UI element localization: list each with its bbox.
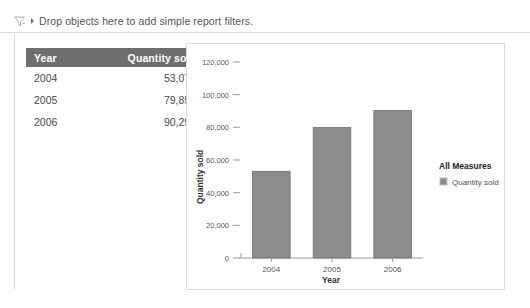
filter-bar-divider xyxy=(0,32,530,33)
filter-funnel-icon xyxy=(13,15,26,28)
cell-year: 2005 xyxy=(26,89,98,111)
y-tick-label: 80,000 xyxy=(206,123,229,132)
y-tick-label: 60,000 xyxy=(206,156,229,165)
table-row: 2005 79,855 xyxy=(26,89,204,111)
table-row: 2004 53,078 xyxy=(26,67,204,89)
x-tick-label: 2004 xyxy=(262,265,280,274)
bar-2005[interactable] xyxy=(313,128,351,258)
bar-chart: Quantity sold 020,00040,00060,00080,0001… xyxy=(187,44,504,289)
bar-series-quantity-sold xyxy=(253,111,412,258)
table-row: 2006 90,296 xyxy=(26,111,204,133)
cell-year: 2004 xyxy=(26,67,98,89)
y-tick-label: 40,000 xyxy=(206,189,229,198)
y-tick-label: 100,000 xyxy=(202,91,229,100)
column-header-year[interactable]: Year xyxy=(26,48,98,67)
x-axis-ticks: 200420052006 xyxy=(262,258,402,274)
legend-swatch-quantity-sold xyxy=(440,178,447,185)
bar-2006[interactable] xyxy=(374,111,412,258)
bar-2004[interactable] xyxy=(253,171,291,258)
legend-label-quantity-sold: Quantity sold xyxy=(452,178,499,187)
x-tick-label: 2005 xyxy=(323,265,341,274)
cell-year: 2006 xyxy=(26,111,98,133)
y-tick-label: 120,000 xyxy=(202,58,229,67)
chevron-down-icon[interactable] xyxy=(31,18,34,24)
y-axis-ticks: 020,00040,00060,00080,000100,000120,000 xyxy=(202,58,240,263)
y-axis-title: Quantity sold xyxy=(195,150,205,204)
x-tick-label: 2006 xyxy=(384,265,402,274)
filter-placeholder-text: Drop objects here to add simple report f… xyxy=(39,15,253,27)
legend-title: All Measures xyxy=(439,161,492,171)
table-header-row: Year Quantity sold xyxy=(26,48,204,67)
x-axis-title: Year xyxy=(322,275,341,285)
chart-legend: All Measures Quantity sold xyxy=(439,161,499,187)
chart-panel[interactable]: Quantity sold 020,00040,00060,00080,0001… xyxy=(186,43,505,290)
y-tick-label: 0 xyxy=(225,254,229,263)
y-tick-label: 20,000 xyxy=(206,221,229,230)
report-data-table: Year Quantity sold 2004 53,078 2005 79,8… xyxy=(26,48,204,133)
page-left-rule xyxy=(14,33,15,289)
report-filter-bar[interactable]: Drop objects here to add simple report f… xyxy=(0,10,530,32)
